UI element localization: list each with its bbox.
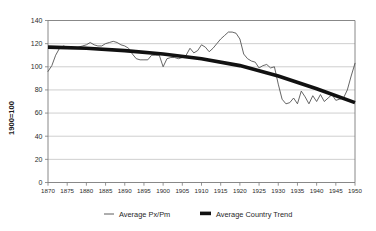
x-tick-label-1895: 1895 bbox=[137, 187, 151, 194]
y-tick-label-100: 100 bbox=[31, 63, 43, 70]
gridlines-group bbox=[45, 21, 355, 183]
x-tick-label-1910: 1910 bbox=[195, 187, 209, 194]
series-average-country-trend bbox=[48, 47, 355, 103]
y-axis-title: 1900=100 bbox=[7, 101, 16, 135]
x-tick-label-1930: 1930 bbox=[271, 187, 285, 194]
y-axis-tick-labels: 020406080100120140 bbox=[31, 17, 43, 186]
y-tick-label-60: 60 bbox=[35, 109, 43, 116]
legend-marker-average-country-trend bbox=[200, 212, 211, 216]
x-tick-label-1920: 1920 bbox=[233, 187, 247, 194]
x-axis-tick-marks bbox=[48, 183, 355, 186]
chart-canvas: 020406080100120140 187018751880188518901… bbox=[0, 0, 376, 231]
x-tick-label-1890: 1890 bbox=[118, 187, 132, 194]
y-tick-label-20: 20 bbox=[35, 156, 43, 163]
y-tick-label-120: 120 bbox=[31, 40, 43, 47]
x-tick-label-1935: 1935 bbox=[291, 187, 305, 194]
x-tick-label-1870: 1870 bbox=[41, 187, 55, 194]
y-tick-label-80: 80 bbox=[35, 86, 43, 93]
x-tick-label-1900: 1900 bbox=[156, 187, 170, 194]
x-tick-label-1945: 1945 bbox=[329, 187, 343, 194]
x-tick-label-1940: 1940 bbox=[310, 187, 324, 194]
x-axis-tick-labels: 1870187518801885189018951900190519101915… bbox=[41, 187, 362, 194]
x-tick-label-1950: 1950 bbox=[348, 187, 362, 194]
legend-label-average-px-pm: Average Px/Pm bbox=[119, 210, 170, 219]
x-tick-label-1880: 1880 bbox=[79, 187, 93, 194]
y-tick-label-0: 0 bbox=[39, 179, 43, 186]
legend-label-average-country-trend: Average Country Trend bbox=[216, 210, 292, 219]
x-tick-label-1905: 1905 bbox=[175, 187, 189, 194]
series-average-px-pm bbox=[48, 32, 355, 104]
x-tick-label-1915: 1915 bbox=[214, 187, 228, 194]
chart-legend: Average Px/Pm Average Country Trend bbox=[104, 210, 292, 219]
x-tick-label-1925: 1925 bbox=[252, 187, 266, 194]
x-tick-label-1875: 1875 bbox=[60, 187, 74, 194]
y-tick-label-40: 40 bbox=[35, 133, 43, 140]
y-tick-label-140: 140 bbox=[31, 17, 43, 24]
x-tick-label-1885: 1885 bbox=[99, 187, 113, 194]
chart-container: 020406080100120140 187018751880188518901… bbox=[0, 0, 376, 231]
